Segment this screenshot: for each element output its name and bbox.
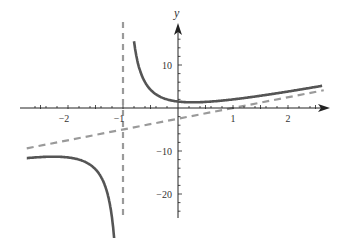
oblique-asymptote [27, 90, 324, 148]
curve-left-branch [27, 157, 114, 238]
y-tick-label: −20 [156, 189, 172, 200]
x-tick-label: 1 [231, 113, 236, 124]
x-tick-label: −2 [59, 113, 70, 124]
curve-right-branch [134, 41, 322, 102]
y-tick-label: −10 [156, 146, 172, 157]
y-tick-label: 10 [162, 60, 172, 71]
curves [27, 41, 322, 238]
y-axis-title: y [173, 6, 180, 20]
function-plot: −2−11210−10−20y [0, 0, 338, 238]
x-tick-label: −1 [114, 113, 125, 124]
x-tick-label: 2 [286, 113, 291, 124]
asymptotes [27, 22, 324, 218]
